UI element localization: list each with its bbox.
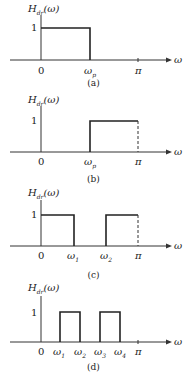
tick-label: ω (74, 346, 82, 357)
y-axis-label: Hdr(ω) (28, 4, 59, 18)
tick-omega-p: ωp (84, 157, 96, 171)
y-label-main: H (28, 94, 37, 105)
panel-c-bandstop: Hdr(ω) 1 0 ω1 ω2 π ω (c) (0, 182, 187, 274)
level-one-label: 1 (31, 308, 37, 318)
panel-d-multiband: Hdr(ω) 1 0 ω1 ω2 ω3 ω4 π ω (d) (0, 276, 187, 374)
y-label-arg: (ω) (43, 187, 59, 198)
panel-b-highpass: Hdr(ω) 1 0 ωp π ω (b) (0, 90, 187, 182)
tick-label: ω (84, 156, 92, 167)
tick-sub: 3 (102, 352, 106, 359)
caption-a: (a) (0, 78, 187, 88)
tick-sub: 1 (61, 352, 65, 359)
tick-label: ω (100, 250, 108, 261)
tick-omega-2: ω2 (100, 251, 112, 265)
tick-sub: 1 (75, 256, 79, 263)
y-label-main: H (28, 282, 37, 293)
panel-a-lowpass: Hdr(ω) 1 0 ωp π ω (a) (0, 0, 187, 92)
tick-omega-1: ω1 (53, 347, 65, 361)
y-label-main: H (28, 3, 37, 14)
y-label-arg: (ω) (43, 3, 59, 14)
y-axis-label: Hdr(ω) (28, 283, 59, 297)
origin-label: 0 (38, 251, 44, 261)
tick-omega-2: ω2 (74, 347, 86, 361)
level-one-label: 1 (31, 116, 37, 126)
tick-label: ω (67, 250, 75, 261)
pi-label: π (135, 66, 142, 76)
tick-omega-1: ω1 (67, 251, 79, 265)
level-one-label: 1 (31, 23, 37, 33)
tick-omega-3: ω3 (94, 347, 106, 361)
tick-sub: 2 (82, 352, 86, 359)
tick-label: ω (94, 346, 102, 357)
origin-label: 0 (38, 66, 44, 76)
y-axis-label: Hdr(ω) (28, 188, 59, 202)
origin-label: 0 (38, 347, 44, 357)
x-axis-label: ω (174, 147, 182, 157)
y-label-arg: (ω) (43, 282, 59, 293)
caption-d: (d) (0, 362, 187, 372)
tick-label: ω (114, 346, 122, 357)
tick-label: ω (53, 346, 61, 357)
pi-label: π (135, 347, 142, 357)
tick-sub: 4 (122, 352, 126, 359)
x-axis-label: ω (174, 55, 182, 65)
x-axis-label: ω (174, 337, 182, 347)
y-label-arg: (ω) (43, 94, 59, 105)
origin-label: 0 (38, 157, 44, 167)
x-axis-label: ω (174, 241, 182, 251)
tick-omega-4: ω4 (114, 347, 126, 361)
tick-sub: p (92, 71, 96, 78)
level-one-label: 1 (31, 210, 37, 220)
y-axis-label: Hdr(ω) (28, 95, 59, 109)
pi-label: π (135, 251, 142, 261)
tick-label: ω (84, 65, 92, 76)
tick-sub: p (92, 162, 96, 169)
y-label-main: H (28, 187, 37, 198)
tick-sub: 2 (108, 256, 112, 263)
pi-label: π (135, 157, 142, 167)
